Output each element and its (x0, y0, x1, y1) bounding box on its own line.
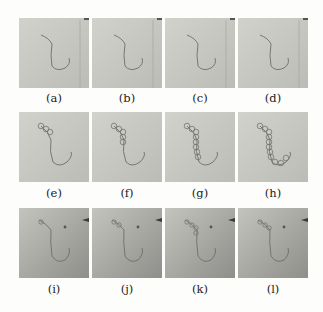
catheter-image (92, 112, 162, 182)
subfigure-label-l: (l) (238, 283, 308, 295)
subfigure-b (92, 18, 162, 88)
catheter-image (92, 18, 162, 88)
subfigure-j (92, 208, 162, 278)
subfigure-c (165, 18, 235, 88)
subfigure-label-c: (c) (165, 92, 235, 104)
catheter-image (165, 112, 235, 182)
catheter-image (165, 208, 235, 278)
subfigure-a (19, 18, 89, 88)
subfigure-label-d: (d) (238, 92, 308, 104)
catheter-image (238, 208, 308, 278)
subfigure-label-h: (h) (238, 187, 308, 199)
subfigure-d (238, 18, 308, 88)
subfigure-e (19, 112, 89, 182)
subfigure-label-e: (e) (19, 187, 89, 199)
catheter-image (19, 18, 89, 88)
subfigure-label-k: (k) (165, 283, 235, 295)
subfigure-label-g: (g) (165, 187, 235, 199)
catheter-image (19, 112, 89, 182)
subfigure-label-i: (i) (19, 283, 89, 295)
subfigure-l (238, 208, 308, 278)
subfigure-label-j: (j) (92, 283, 162, 295)
subfigure-label-f: (f) (92, 187, 162, 199)
subfigure-i (19, 208, 89, 278)
catheter-image (92, 208, 162, 278)
subfigure-label-a: (a) (19, 92, 89, 104)
catheter-image (165, 18, 235, 88)
subfigure-f (92, 112, 162, 182)
subfigure-h (238, 112, 308, 182)
subfigure-k (165, 208, 235, 278)
subfigure-g (165, 112, 235, 182)
catheter-image (238, 112, 308, 182)
subfigure-label-b: (b) (92, 92, 162, 104)
catheter-image (19, 208, 89, 278)
catheter-image (238, 18, 308, 88)
